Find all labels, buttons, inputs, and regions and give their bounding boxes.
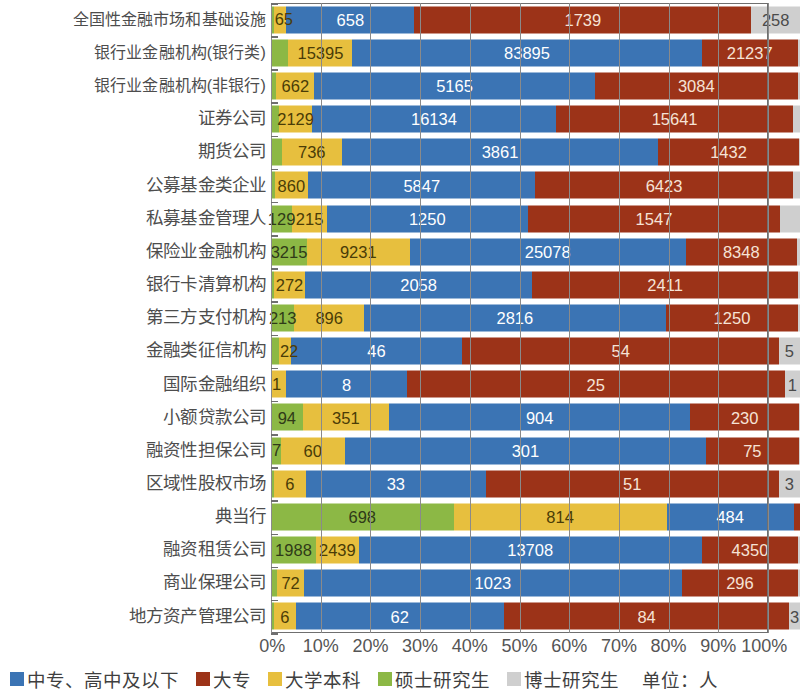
bar-segment[interactable]: 698 (271, 503, 454, 530)
bar-segment[interactable]: 2411 (532, 271, 799, 298)
stacked-bar[interactable]: 12921512501547108 (271, 205, 800, 232)
bar-segment[interactable]: 2058 (305, 271, 531, 298)
bar-segment[interactable]: 7 (271, 437, 281, 464)
stacked-bar[interactable]: 21389628161250 (271, 304, 800, 331)
stacked-bar[interactable]: 27220582411 (271, 271, 800, 298)
bar-segment[interactable]: 860 (275, 172, 308, 199)
bar-segment[interactable]: 72 (277, 570, 303, 597)
bar-segment[interactable]: 13708 (359, 537, 702, 564)
legend-item[interactable]: 大学本科 (268, 666, 361, 692)
stacked-bar[interactable]: 32159231250788348 (271, 238, 800, 265)
bar-segment[interactable]: 896 (294, 304, 364, 331)
bar-segment[interactable]: 1250 (666, 304, 799, 331)
bar-segment[interactable]: 814 (454, 503, 667, 530)
bar-segment[interactable]: 6 (274, 470, 306, 497)
bar-segment[interactable]: 1 (271, 371, 286, 398)
stacked-bar[interactable]: 153958389521237 (271, 39, 800, 66)
bar-segment[interactable]: 15395 (288, 39, 352, 66)
bar-segment[interactable]: 1023 (304, 570, 682, 597)
stacked-bar[interactable]: 662843 (271, 603, 800, 630)
bar-segment[interactable]: 296 (682, 570, 798, 597)
bar-segment[interactable]: 3 (779, 470, 800, 497)
stacked-bar[interactable]: 66251653084 (271, 72, 800, 99)
bar-segment[interactable]: 25078 (410, 238, 686, 265)
bar-segment[interactable]: 129 (271, 205, 292, 232)
bar-segment[interactable] (271, 39, 288, 66)
bar-segment[interactable]: 484 (667, 503, 794, 530)
bar-segment[interactable]: 8348 (686, 238, 797, 265)
stacked-bar[interactable]: 633513 (271, 470, 800, 497)
stacked-bar[interactable]: 18251 (271, 371, 800, 398)
legend-item[interactable]: 中专、高中及以下 (10, 666, 179, 692)
bar-segment[interactable]: 904 (389, 404, 691, 431)
stacked-bar[interactable]: 2246545 (271, 338, 800, 365)
bar-segment[interactable]: 8 (286, 371, 407, 398)
bar-segment[interactable]: 22 (279, 338, 291, 365)
bar-segment[interactable]: 15641 (556, 106, 793, 133)
bar-segment[interactable]: 3861 (342, 139, 658, 166)
bar-segment[interactable]: 3 (789, 603, 800, 630)
bar-segment[interactable] (793, 106, 800, 133)
bar-segment[interactable]: 2816 (364, 304, 666, 331)
bar-segment[interactable]: 4350 (702, 537, 799, 564)
bar-segment[interactable]: 54 (462, 338, 778, 365)
bar-segment[interactable]: 1432 (658, 139, 799, 166)
bar-segment[interactable]: 60 (281, 437, 346, 464)
bar-segment[interactable] (271, 338, 279, 365)
bar-segment[interactable]: 258 (751, 6, 800, 33)
bar-segment[interactable]: 9231 (307, 238, 410, 265)
bar-segment[interactable] (271, 139, 282, 166)
bar-segment[interactable]: 2129 (279, 106, 311, 133)
bar-segment[interactable]: 6423 (535, 172, 792, 199)
bar-segment[interactable]: 25 (407, 371, 785, 398)
bar-segment[interactable]: 736 (282, 139, 342, 166)
bar-segment[interactable]: 272 (274, 271, 306, 298)
bar-segment[interactable]: 21237 (702, 39, 798, 66)
legend-item[interactable]: 大专 (196, 666, 251, 692)
bar-segment[interactable]: 215 (292, 205, 327, 232)
bar-segment[interactable]: 16134 (312, 106, 556, 133)
bar-segment[interactable]: 3215 (271, 238, 307, 265)
bar-segment[interactable]: 1 (785, 371, 800, 398)
bar-segment[interactable]: 94 (271, 404, 303, 431)
bar-segment[interactable]: 83895 (352, 39, 701, 66)
bar-segment[interactable]: 84 (504, 603, 790, 630)
bar-segment[interactable]: 1547 (528, 205, 781, 232)
bar-segment[interactable]: 33 (306, 470, 486, 497)
bar-segment[interactable]: 46 (291, 338, 463, 365)
stacked-bar[interactable]: 19882439137084350 (271, 537, 800, 564)
bar-segment[interactable]: 1250 (327, 205, 527, 232)
bar-segment[interactable]: 213 (271, 304, 294, 331)
bar-segment[interactable]: 5165 (314, 72, 594, 99)
bar-segment[interactable]: 5 (779, 338, 800, 365)
bar-segment[interactable]: 75 (706, 437, 799, 464)
bar-segment[interactable]: 5847 (308, 172, 535, 199)
bar-segment[interactable] (793, 172, 800, 199)
bar-segment[interactable]: 6 (274, 603, 296, 630)
bar-segment[interactable]: 351 (303, 404, 389, 431)
bar-segment[interactable]: 301 (345, 437, 706, 464)
bar-segment[interactable]: 65 (274, 6, 287, 33)
bar-segment[interactable]: 3084 (595, 72, 798, 99)
bar-segment[interactable]: 1988 (271, 537, 316, 564)
stacked-bar[interactable]: 73638611432 (271, 139, 800, 166)
stacked-bar[interactable]: 698814484 (271, 503, 800, 530)
bar-segment[interactable]: 2439 (316, 537, 359, 564)
legend-item[interactable]: 硕士研究生 (378, 666, 490, 692)
bar-segment[interactable]: 662 (276, 72, 314, 99)
bar-segment[interactable]: 51 (486, 470, 779, 497)
stacked-bar[interactable]: 94351904230 (271, 404, 800, 431)
stacked-bar[interactable]: 656581739258 (271, 6, 800, 33)
bar-segment[interactable]: 658 (286, 6, 414, 33)
bar-segment[interactable] (794, 503, 800, 530)
stacked-bar[interactable]: 76030175 (271, 437, 800, 464)
bar-segment[interactable]: 108 (780, 205, 800, 232)
bar-segment[interactable]: 230 (690, 404, 798, 431)
stacked-bar[interactable]: 21291613415641 (271, 106, 800, 133)
stacked-bar[interactable]: 86058476423 (271, 172, 800, 199)
stacked-bar[interactable]: 721023296 (271, 570, 800, 597)
bar-segment[interactable]: 1739 (414, 6, 751, 33)
bar-segment[interactable] (797, 238, 800, 265)
bar-segment[interactable]: 62 (296, 603, 504, 630)
legend-item[interactable]: 博士研究生 (507, 666, 619, 692)
